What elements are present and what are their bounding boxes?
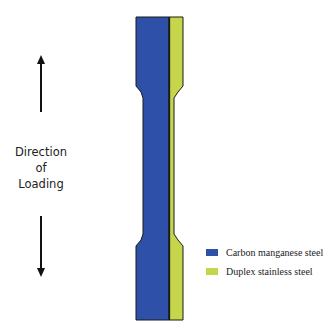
direction-label-line-2: of [8, 160, 74, 176]
direction-label-line-3: Loading [8, 176, 74, 192]
duplex-stainless-steel-region [169, 17, 183, 320]
legend: Carbon manganese steel Duplex stainless … [206, 243, 323, 281]
legend-item-duplex-stainless-steel: Duplex stainless steel [206, 262, 323, 281]
direction-label-line-1: Direction [8, 144, 74, 160]
legend-item-carbon-manganese-steel: Carbon manganese steel [206, 243, 323, 262]
carbon-manganese-steel-region [136, 17, 169, 320]
legend-label-duplex: Duplex stainless steel [226, 266, 313, 277]
direction-of-loading-label: Direction of Loading [8, 144, 74, 192]
down-arrow-icon [37, 216, 45, 277]
up-arrow-icon [37, 55, 45, 112]
legend-label-carbon: Carbon manganese steel [226, 247, 323, 258]
legend-swatch-carbon [206, 249, 218, 256]
legend-swatch-duplex [206, 268, 218, 275]
